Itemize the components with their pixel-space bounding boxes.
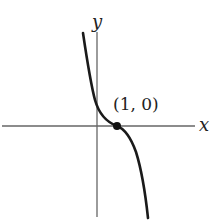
point-label: (1, 0) xyxy=(113,94,159,114)
y-axis-label: y xyxy=(91,11,103,32)
point-marker xyxy=(113,122,121,130)
function-graph: y x (1, 0) xyxy=(0,0,220,221)
x-axis-label: x xyxy=(199,114,209,135)
